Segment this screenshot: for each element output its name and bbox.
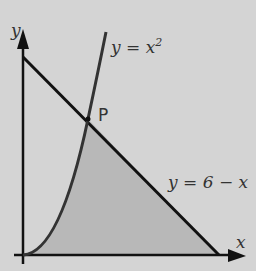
point-p-label: P [98, 105, 108, 125]
parabola-label: y = x2 [110, 36, 162, 57]
x-axis-label: x [236, 232, 246, 252]
line-label: y = 6 − x [167, 172, 249, 192]
diagram: y x P y = x2 y = 6 − x [0, 0, 256, 271]
y-axis-label: y [10, 20, 21, 40]
point-p-marker [86, 117, 91, 122]
